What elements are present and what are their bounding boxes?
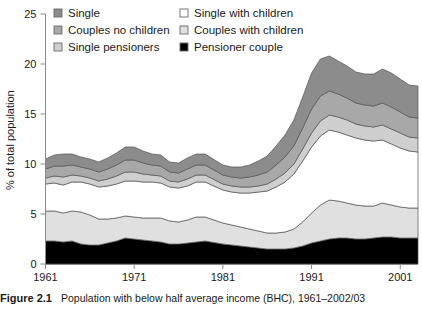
legend-label: Pensioner couple <box>194 41 283 53</box>
legend-swatch <box>180 43 188 51</box>
y-axis-ticks: 0510152025 <box>24 8 45 270</box>
legend-label: Couples no children <box>68 24 170 36</box>
legend-swatch <box>54 26 62 34</box>
figure-caption-text: Population with below half average incom… <box>61 292 365 304</box>
legend-label: Single with children <box>194 7 293 19</box>
legend-swatch <box>54 43 62 51</box>
stacked-area-chart: 0510152025 19611971198119912001 % of tot… <box>0 0 422 286</box>
y-tick-label: 20 <box>24 58 36 70</box>
y-tick-label: 15 <box>24 108 36 120</box>
chart-bands <box>46 56 419 264</box>
legend-label: Single <box>68 7 100 19</box>
y-tick-label: 0 <box>30 258 36 270</box>
chart-legend: SingleCouples no childrenSingle pensione… <box>54 7 303 53</box>
figure-container: 0510152025 19611971198119912001 % of tot… <box>0 0 422 314</box>
y-axis-title: % of total population <box>4 90 16 190</box>
x-tick-label: 1961 <box>33 271 57 283</box>
legend-label: Single pensioners <box>68 41 160 53</box>
legend-label: Couples with children <box>194 24 303 36</box>
x-tick-label: 1991 <box>299 271 323 283</box>
y-tick-label: 25 <box>24 8 36 20</box>
x-axis-ticks: 19611971198119912001 <box>33 264 412 283</box>
figure-caption: Figure 2.1Population with below half ave… <box>0 292 422 305</box>
y-tick-label: 10 <box>24 158 36 170</box>
y-tick-label: 5 <box>30 208 36 220</box>
chart-plot-area: 0510152025 19611971198119912001 % of tot… <box>0 0 422 286</box>
legend-swatch <box>180 26 188 34</box>
figure-number: Figure 2.1 <box>0 292 52 304</box>
legend-swatch <box>180 9 188 17</box>
legend-swatch <box>54 9 62 17</box>
x-tick-label: 1971 <box>122 271 146 283</box>
x-tick-label: 1981 <box>211 271 235 283</box>
x-tick-label: 2001 <box>388 271 412 283</box>
